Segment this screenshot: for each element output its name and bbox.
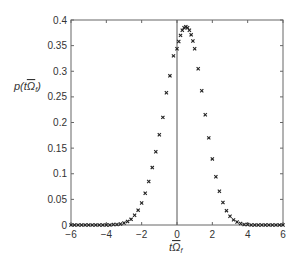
x-tick-label: 0 <box>174 229 180 240</box>
chart: −6−4−20246 00.050.10.150.20.250.30.350.4… <box>0 0 299 267</box>
data-point-marker <box>197 67 200 70</box>
data-point-marker <box>232 218 235 221</box>
x-tick-label: 4 <box>245 229 251 240</box>
data-point-marker <box>147 180 150 183</box>
data-point-marker <box>177 40 180 43</box>
data-point-marker <box>179 34 182 37</box>
x-tick-label: 6 <box>280 229 286 240</box>
data-point-marker <box>191 39 194 42</box>
data-point-marker <box>144 192 147 195</box>
x-axis-ticks: −6−4−20246 <box>65 20 286 240</box>
y-tick-label: 0.35 <box>48 40 68 51</box>
data-point-marker <box>214 175 217 178</box>
x-tick-label: 2 <box>210 229 216 240</box>
data-point-marker <box>158 133 161 136</box>
data-point-marker <box>140 201 143 204</box>
data-point-marker <box>204 113 207 116</box>
y-tick-label: 0.2 <box>53 117 67 128</box>
data-point-marker <box>235 220 238 223</box>
x-tick-label: −6 <box>65 229 77 240</box>
y-tick-label: 0.25 <box>48 91 68 102</box>
data-point-marker <box>122 221 125 224</box>
data-point-marker <box>172 54 175 57</box>
data-point-marker <box>243 223 246 226</box>
y-axis-ticks: 00.050.10.150.20.250.30.350.4 <box>48 15 283 231</box>
data-point-marker <box>181 29 184 32</box>
x-axis-label: tΩf <box>169 241 183 254</box>
data-point-marker <box>200 89 203 92</box>
data-point-marker <box>211 157 214 160</box>
y-tick-label: 0.4 <box>53 15 67 26</box>
data-point-marker <box>221 201 224 204</box>
data-point-marker <box>228 215 231 218</box>
y-tick-label: 0 <box>61 220 67 231</box>
data-point-marker <box>168 74 171 77</box>
data-point-marker <box>126 220 129 223</box>
y-tick-label: 0.05 <box>48 194 68 205</box>
data-point-marker <box>154 150 157 153</box>
data-point-marker <box>225 209 228 212</box>
data-point-marker <box>165 91 168 94</box>
data-point-marker <box>151 166 154 169</box>
data-point-marker <box>188 29 191 32</box>
data-point-marker <box>133 214 136 217</box>
data-point-marker <box>129 218 132 221</box>
data-point-marker <box>190 33 193 36</box>
data-point-marker <box>112 223 115 226</box>
plot-frame <box>71 20 283 225</box>
x-tick-label: −2 <box>136 229 148 240</box>
data-point-marker <box>161 116 164 119</box>
y-tick-label: 0.3 <box>53 66 67 77</box>
data-point-marker <box>115 223 118 226</box>
y-tick-label: 0.1 <box>53 168 67 179</box>
x-tick-label: −4 <box>101 229 113 240</box>
y-axis-label: p(tΩf) <box>13 80 41 93</box>
data-point-marker <box>193 47 196 50</box>
data-point-marker <box>137 209 140 212</box>
y-tick-label: 0.15 <box>48 143 68 154</box>
data-point-marker <box>207 136 210 139</box>
data-point-marker <box>218 190 221 193</box>
